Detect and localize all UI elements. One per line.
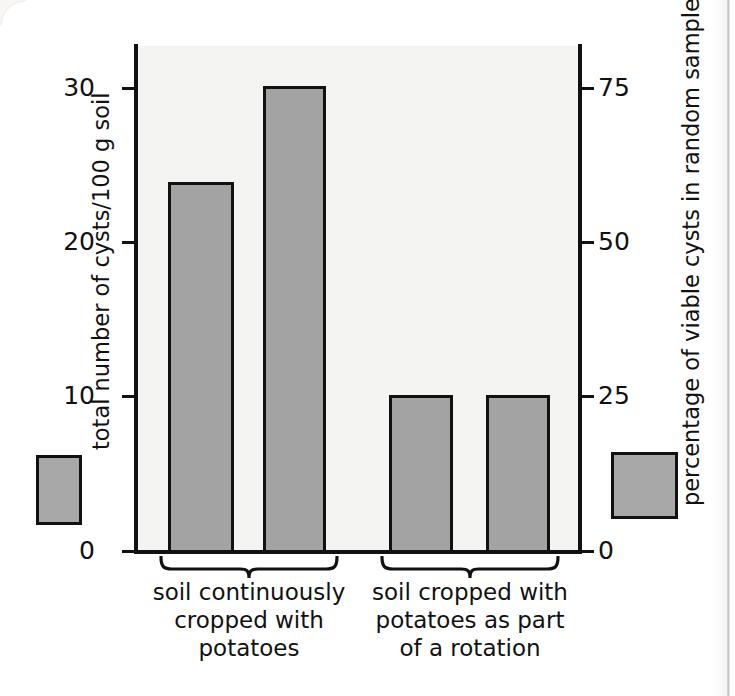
x-axis-line xyxy=(134,550,582,554)
bar-continuous-total-cysts[interactable] xyxy=(168,182,234,553)
page-edge-gradient xyxy=(712,0,727,696)
page-canvas: 30 20 10 0 75 50 25 0 total number of cy… xyxy=(0,0,735,696)
group-label-rotation-line-1: soil cropped with xyxy=(369,578,571,606)
y-axis-left-tick-0 xyxy=(122,550,136,553)
y-axis-left-title: total number of cysts/100 g soil xyxy=(88,93,114,450)
y-axis-right-tick-25 xyxy=(580,395,594,398)
y-axis-left-tick-20 xyxy=(122,241,136,244)
page-edge-line xyxy=(727,0,730,696)
legend-swatch-viable-pct xyxy=(611,452,678,519)
y-axis-right-line xyxy=(578,44,582,554)
y-axis-left-line xyxy=(134,44,138,554)
y-axis-right-tick-0 xyxy=(580,550,594,553)
group-label-rotation: soil cropped with potatoes as part of a … xyxy=(369,578,571,662)
group-brace-continuous xyxy=(158,556,340,580)
bar-chart-figure: 30 20 10 0 75 50 25 0 total number of cy… xyxy=(0,0,712,678)
y-axis-right-tick-label-0: 0 xyxy=(598,538,614,563)
bar-rotation-total-cysts[interactable] xyxy=(389,395,453,553)
group-label-continuous-line-1: soil continuously xyxy=(148,578,350,606)
y-axis-right-tick-label-75: 75 xyxy=(598,75,630,100)
group-brace-rotation xyxy=(379,556,561,580)
group-label-continuous-line-2: cropped with xyxy=(148,606,350,634)
legend-swatch-total-cysts xyxy=(36,455,82,525)
y-axis-right-tick-75 xyxy=(580,87,594,90)
group-label-continuous-line-3: potatoes xyxy=(148,634,350,662)
y-axis-right-title: percentage of viable cysts in random sam… xyxy=(678,0,704,506)
bar-continuous-viable-pct[interactable] xyxy=(263,86,326,553)
y-axis-right-tick-label-25: 25 xyxy=(598,383,630,408)
y-axis-left-tick-label-0: 0 xyxy=(79,538,95,563)
y-axis-left-tick-30 xyxy=(122,87,136,90)
group-label-rotation-line-3: of a rotation xyxy=(369,634,571,662)
group-label-rotation-line-2: potatoes as part xyxy=(369,606,571,634)
y-axis-right-tick-label-50: 50 xyxy=(598,229,630,254)
bar-rotation-viable-pct[interactable] xyxy=(486,395,550,553)
y-axis-right-tick-50 xyxy=(580,241,594,244)
group-label-continuous: soil continuously cropped with potatoes xyxy=(148,578,350,662)
y-axis-left-tick-10 xyxy=(122,395,136,398)
